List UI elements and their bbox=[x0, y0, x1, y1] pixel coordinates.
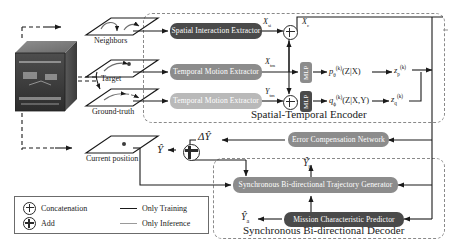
var-z-prior: zp(k) bbox=[394, 64, 406, 77]
dist-posterior: qϕ(k)(Z|X,Y) bbox=[329, 94, 369, 107]
block-temporal-motion-extractor-x[interactable]: Temporal Motion Extractor bbox=[170, 64, 262, 80]
legend-item-only-training: Only Training bbox=[120, 201, 187, 215]
block-label: Temporal Motion Extractor bbox=[173, 97, 259, 105]
block-mlp-prior[interactable]: MLP bbox=[300, 62, 312, 83]
legend-label: Only Inference bbox=[142, 219, 190, 228]
block-label: MLP bbox=[303, 94, 310, 108]
var-y-hat-a: Ŷa bbox=[241, 211, 249, 224]
block-label: Synchronous Bi-directional Trajectory Ge… bbox=[239, 181, 393, 189]
block-temporal-motion-extractor-y[interactable]: Temporal Motion Extractor bbox=[170, 93, 262, 109]
encoder-title: Spatial-Temporal Encoder bbox=[251, 108, 367, 120]
legend-label: Add bbox=[41, 219, 55, 228]
block-error-compensation-network[interactable]: Error Compensation Network bbox=[288, 132, 389, 147]
block-synchronous-bidirectional-trajectory-generator[interactable]: Synchronous Bi-directional Trajectory Ge… bbox=[233, 177, 398, 193]
decoder-title: Synchronous Bi-directional Decoder bbox=[243, 224, 404, 236]
legend-item-only-inference: Only Inference bbox=[120, 216, 190, 230]
legend-item-concatenation: Concatenation bbox=[23, 201, 87, 215]
var-x-tm: Xtm bbox=[265, 57, 275, 68]
traffic-scene-image bbox=[15, 41, 77, 113]
plane-label-current-position: Current position bbox=[86, 154, 138, 163]
plane-label-target: Target bbox=[101, 74, 121, 83]
inference-line-icon bbox=[120, 223, 137, 224]
concat-circle-icon bbox=[23, 202, 36, 215]
legend-label: Concatenation bbox=[41, 204, 87, 213]
plane-label-neighbors: Neighbors bbox=[94, 36, 127, 45]
var-delta-y-hat: ΔŶ bbox=[198, 130, 211, 142]
var-y-hat-output: Ŷ bbox=[157, 143, 163, 155]
concat-circle-icon-1 bbox=[283, 25, 298, 40]
var-x-si: Xsi bbox=[263, 17, 271, 28]
var-x-c: Xc bbox=[302, 17, 309, 28]
legend-box: Concatenation Add Only Training Only Inf… bbox=[14, 196, 209, 234]
add-circle-icon-output bbox=[183, 144, 200, 161]
dist-prior: pθ(k)(Z|X) bbox=[329, 65, 361, 78]
block-label: Error Compensation Network bbox=[292, 136, 385, 144]
legend-item-add: Add bbox=[23, 216, 55, 230]
legend-label: Only Training bbox=[142, 204, 187, 213]
plane-label-ground-truth: Ground-truth bbox=[92, 107, 134, 116]
block-label: Mission Characteristic Predictor bbox=[293, 216, 394, 224]
block-label: Spatial Interaction Extractor bbox=[172, 27, 261, 35]
add-circle-icon bbox=[23, 217, 36, 230]
block-spatial-interaction-extractor[interactable]: Spatial Interaction Extractor bbox=[170, 23, 262, 39]
training-line-icon bbox=[120, 208, 137, 209]
block-label: Temporal Motion Extractor bbox=[173, 68, 259, 76]
var-y-tm: Ytm bbox=[265, 87, 275, 98]
block-label: MLP bbox=[303, 65, 310, 79]
var-z-posterior: zq(k) bbox=[391, 93, 403, 106]
var-y-hat-b: Ŷb bbox=[303, 157, 312, 170]
figure-canvas: Neighbors Target Ground-truth Current po… bbox=[0, 0, 459, 252]
